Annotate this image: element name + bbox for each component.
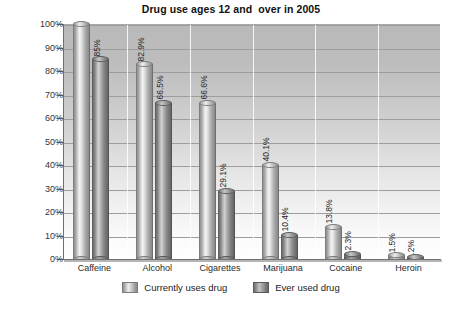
- bar-group: 40.1%10.4%: [262, 25, 298, 259]
- gridline-horizontal: [64, 190, 440, 191]
- legend-label: Currently uses drug: [144, 282, 227, 293]
- chart-legend: Currently uses drugEver used drug: [0, 282, 462, 293]
- bar-cap-ellipse: [199, 100, 216, 106]
- gridline-horizontal: [64, 237, 440, 238]
- y-axis-tick-label: 20%: [7, 207, 63, 217]
- bar-cap-ellipse: [155, 100, 172, 106]
- gridline-horizontal: [64, 25, 440, 26]
- bar-value-label: 2.3%: [344, 231, 353, 250]
- x-axis-tick-label: Caffeine: [63, 263, 126, 273]
- plot-area: 85%82.9%66.5%66.6%29.1%40.1%10.4%13.8%2.…: [63, 24, 440, 259]
- x-axis-tick-label: Cocaine: [314, 263, 377, 273]
- bar[interactable]: 29.1%: [218, 191, 235, 259]
- y-axis-tick-label: 50%: [7, 137, 63, 147]
- y-axis-tick-label: 0%: [7, 254, 63, 264]
- chart-title: Drug use ages 12 and over in 2005: [0, 3, 462, 15]
- bar-group: 85%: [73, 25, 109, 259]
- y-axis-tick-label: 80%: [7, 66, 63, 76]
- bar[interactable]: 10.4%: [281, 235, 298, 259]
- bar-value-label: .2%: [407, 239, 416, 254]
- y-axis-tick-label: 60%: [7, 113, 63, 123]
- bar-cap-ellipse: [218, 188, 235, 194]
- bar-body: [218, 191, 235, 259]
- y-axis-line: [63, 24, 64, 260]
- bar-cap-ellipse: [344, 251, 361, 257]
- legend-swatch: [253, 282, 269, 293]
- bar-body: [325, 227, 342, 259]
- bar[interactable]: 66.6%: [199, 103, 216, 260]
- bar-group: 82.9%66.5%: [136, 25, 172, 259]
- bar-group: 13.8%2.3%: [325, 25, 361, 259]
- y-axis-tick-label: 100%: [7, 19, 63, 29]
- bar-value-label: 85%: [92, 39, 101, 56]
- bar-body: [155, 103, 172, 259]
- gridline-horizontal: [64, 143, 440, 144]
- bar-group: 1.5%.2%: [388, 25, 424, 259]
- gridline-horizontal: [64, 49, 440, 50]
- gridline-horizontal: [64, 166, 440, 167]
- bar[interactable]: 85%: [92, 59, 109, 259]
- bar[interactable]: 82.9%: [136, 64, 153, 259]
- y-axis: 0%10%20%30%40%50%60%70%80%90%100%: [0, 0, 63, 311]
- gridline-horizontal: [64, 213, 440, 214]
- bar-value-label: 29.1%: [218, 164, 227, 188]
- gridline-horizontal: [64, 96, 440, 97]
- gridline-vertical: [190, 25, 191, 259]
- bar-value-label: 40.1%: [262, 138, 271, 162]
- bar-cap-ellipse: [262, 162, 279, 168]
- y-axis-tick-label: 30%: [7, 184, 63, 194]
- x-axis-tick-label: Cigarettes: [189, 263, 252, 273]
- gridline-vertical: [127, 25, 128, 259]
- bar-value-label: 1.5%: [388, 233, 397, 252]
- bar[interactable]: 13.8%: [325, 227, 342, 259]
- bar-body: [136, 64, 153, 259]
- y-axis-tick-label: 40%: [7, 160, 63, 170]
- x-axis-tick-label: Heroin: [377, 263, 440, 273]
- bar-cap-ellipse: [281, 232, 298, 238]
- x-axis-tick-label: Marijuana: [252, 263, 315, 273]
- gridline-horizontal: [64, 72, 440, 73]
- gridline-horizontal: [64, 119, 440, 120]
- bar-body: [262, 165, 279, 259]
- bar-body: [73, 24, 90, 259]
- bar-group: 66.6%29.1%: [199, 25, 235, 259]
- bar-value-label: 82.9%: [136, 37, 145, 61]
- y-axis-tick-label: 10%: [7, 231, 63, 241]
- chart-container: Drug use ages 12 and over in 2005 0%10%2…: [0, 0, 462, 311]
- legend-item[interactable]: Currently uses drug: [122, 282, 227, 293]
- legend-label: Ever used drug: [275, 282, 339, 293]
- y-axis-tick-label: 70%: [7, 90, 63, 100]
- bar[interactable]: 66.5%: [155, 103, 172, 259]
- legend-item[interactable]: Ever used drug: [253, 282, 339, 293]
- bar-body: [199, 103, 216, 260]
- bar[interactable]: 40.1%: [262, 165, 279, 259]
- bar[interactable]: [73, 24, 90, 259]
- y-axis-tick-label: 90%: [7, 43, 63, 53]
- x-axis-line: [63, 259, 441, 260]
- bar-body: [92, 59, 109, 259]
- bar-value-label: 66.5%: [155, 76, 164, 100]
- bar-cap-ellipse: [325, 224, 342, 230]
- x-axis-line-shadow: [64, 260, 442, 262]
- bar-value-label: 66.6%: [199, 75, 208, 99]
- x-axis-tick-label: Alcohol: [126, 263, 189, 273]
- gridline-vertical: [253, 25, 254, 259]
- gridline-vertical: [315, 25, 316, 259]
- gridline-vertical: [378, 25, 379, 259]
- bar-value-label: 10.4%: [281, 207, 290, 231]
- bar-value-label: 13.8%: [325, 199, 334, 223]
- legend-swatch: [122, 282, 138, 293]
